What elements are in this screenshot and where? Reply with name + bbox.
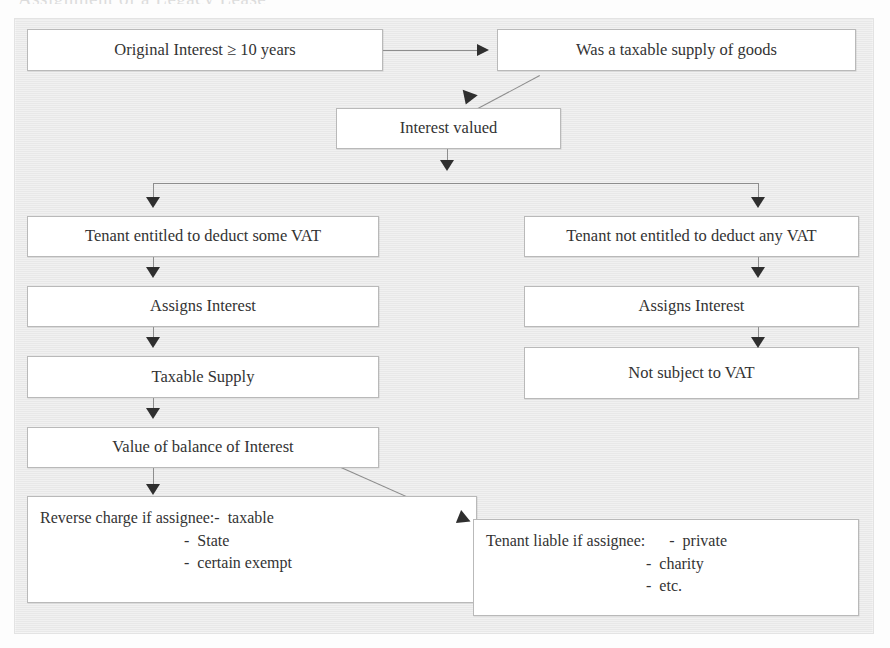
tenant-liable-line-1: Tenant liable if assignee: - private bbox=[486, 530, 858, 553]
node-not-subject-to-vat[interactable]: Not subject to VAT bbox=[524, 347, 859, 399]
node-tenant-entitled-deduct-some-vat[interactable]: Tenant entitled to deduct some VAT bbox=[27, 216, 379, 257]
reverse-charge-line-1: Reverse charge if assignee:- taxable bbox=[40, 507, 476, 530]
arrow-head-original-to-taxable-goods bbox=[477, 44, 489, 56]
cut-off-heading: Assignment of a Legacy Lease bbox=[18, 0, 266, 4]
arrow-head-assigns-to-taxable-supply bbox=[146, 337, 160, 348]
node-assigns-interest-left-label: Assigns Interest bbox=[150, 296, 256, 317]
node-interest-valued-label: Interest valued bbox=[400, 118, 498, 139]
arrow-head-value-balance-to-reverse-charge bbox=[146, 484, 160, 495]
reverse-charge-line-3: - certain exempt bbox=[40, 552, 476, 575]
edge-split-bar bbox=[153, 183, 759, 184]
flowchart-page: Assignment of a Legacy Lease Original In… bbox=[0, 0, 890, 648]
node-was-taxable-supply-of-goods-label: Was a taxable supply of goods bbox=[576, 40, 777, 61]
node-tenant-liable-if-assignee[interactable]: Tenant liable if assignee: - private - c… bbox=[473, 519, 859, 616]
arrow-head-split-to-tenant-entitled bbox=[146, 197, 160, 208]
node-interest-valued[interactable]: Interest valued bbox=[336, 108, 561, 149]
node-original-interest[interactable]: Original Interest ≥ 10 years bbox=[27, 29, 383, 71]
tenant-liable-line-2: - charity bbox=[486, 553, 858, 576]
node-tenant-not-entitled-deduct-any-vat-label: Tenant not entitled to deduct any VAT bbox=[566, 226, 816, 247]
edge-original-to-taxable-goods bbox=[383, 50, 478, 51]
node-not-subject-to-vat-label: Not subject to VAT bbox=[628, 363, 754, 384]
arrow-head-split-to-tenant-not-entitled bbox=[751, 197, 765, 208]
arrow-head-tenant-entitled-to-assigns bbox=[146, 267, 160, 278]
node-assigns-interest-right[interactable]: Assigns Interest bbox=[524, 286, 859, 327]
node-assigns-interest-right-label: Assigns Interest bbox=[639, 296, 745, 317]
tenant-liable-line-3: - etc. bbox=[486, 575, 858, 598]
node-assigns-interest-left[interactable]: Assigns Interest bbox=[27, 286, 379, 327]
node-original-interest-label: Original Interest ≥ 10 years bbox=[114, 40, 295, 61]
node-taxable-supply[interactable]: Taxable Supply bbox=[27, 356, 379, 398]
arrow-head-assigns-right-to-not-subject-vat bbox=[751, 337, 765, 348]
arrow-head-tenant-not-entitled-to-assigns bbox=[751, 267, 765, 278]
node-was-taxable-supply-of-goods[interactable]: Was a taxable supply of goods bbox=[497, 29, 856, 71]
reverse-charge-line-2: - State bbox=[40, 530, 476, 553]
arrow-head-taxable-supply-to-value-balance bbox=[146, 408, 160, 419]
node-value-of-balance-of-interest-label: Value of balance of Interest bbox=[112, 437, 293, 458]
node-tenant-entitled-deduct-some-vat-label: Tenant entitled to deduct some VAT bbox=[85, 226, 321, 247]
node-taxable-supply-label: Taxable Supply bbox=[152, 367, 255, 388]
node-tenant-not-entitled-deduct-any-vat[interactable]: Tenant not entitled to deduct any VAT bbox=[524, 216, 859, 257]
node-value-of-balance-of-interest[interactable]: Value of balance of Interest bbox=[27, 427, 379, 468]
node-reverse-charge-if-assignee[interactable]: Reverse charge if assignee:- taxable - S… bbox=[27, 496, 477, 603]
arrow-head-interest-valued-down bbox=[440, 160, 454, 171]
